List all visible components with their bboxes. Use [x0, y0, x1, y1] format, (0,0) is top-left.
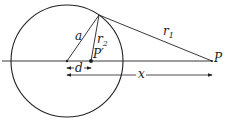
r1-line [99, 15, 212, 61]
label-a: a [75, 29, 82, 43]
diagram: a r2 P′ d r1 P x [0, 0, 231, 124]
label-p: P [213, 51, 223, 65]
label-r1: r1 [163, 24, 174, 40]
label-r2: r2 [97, 32, 108, 48]
image-charge-diagram: a r2 P′ d r1 P x [0, 0, 231, 124]
label-d: d [75, 61, 83, 75]
p-point [211, 60, 213, 62]
label-p-prime: P′ [92, 47, 104, 61]
center-point [66, 60, 68, 62]
label-x: x [138, 67, 145, 81]
